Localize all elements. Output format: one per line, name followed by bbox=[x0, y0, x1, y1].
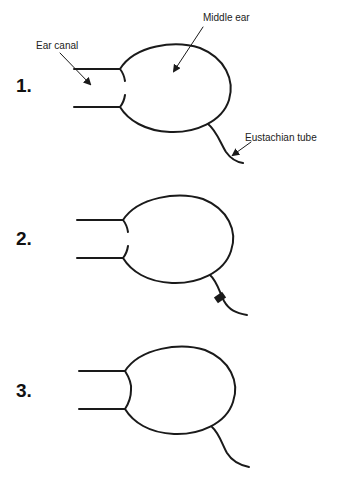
middle-ear-cavity bbox=[123, 196, 233, 283]
eardrum-upper-segment bbox=[123, 220, 128, 232]
eustachian-tube bbox=[212, 427, 249, 467]
middle-ear-arrow bbox=[174, 27, 203, 71]
panel-2-number: 2. bbox=[16, 228, 32, 250]
eardrum-upper-segment bbox=[120, 69, 125, 81]
eardrum-lower-segment bbox=[123, 246, 128, 258]
eardrum-intact bbox=[125, 371, 131, 409]
panel-1-number: 1. bbox=[16, 75, 32, 97]
eustachian-tube bbox=[208, 124, 243, 163]
middle-ear-cavity bbox=[125, 347, 235, 434]
ear-diagram-figure: Middle ear Ear canal Eustachian tube 1. … bbox=[0, 0, 341, 490]
middle-ear-cavity bbox=[120, 44, 231, 132]
panel-1-diagram bbox=[60, 27, 251, 163]
panel-3-number: 3. bbox=[16, 380, 32, 402]
eardrum-lower-segment bbox=[120, 95, 125, 107]
eustachian-tube-label: Eustachian tube bbox=[245, 132, 317, 143]
ear-canal-label: Ear canal bbox=[36, 40, 78, 51]
middle-ear-label: Middle ear bbox=[203, 12, 250, 23]
eustachian-tube bbox=[210, 275, 247, 315]
diagram-drawing bbox=[0, 0, 341, 490]
panel-3-diagram bbox=[79, 347, 249, 467]
eustachian-tube-arrow bbox=[233, 142, 251, 155]
